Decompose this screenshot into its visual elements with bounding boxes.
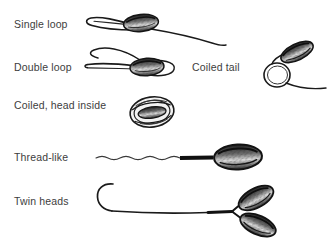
drawing-coiled-head-inside <box>128 94 176 130</box>
drawings-layer <box>0 0 336 247</box>
label-single-loop: Single loop <box>14 19 68 30</box>
label-coiled-tail: Coiled tail <box>192 62 240 73</box>
drawing-coiled-tail <box>264 37 326 89</box>
label-thread-like: Thread-like <box>14 152 68 163</box>
sperm-morphology-figure: Single loop Double loop Coiled, head ins… <box>0 0 336 247</box>
drawing-twin-heads <box>97 181 279 242</box>
label-coiled-head-inside: Coiled, head inside <box>14 100 106 111</box>
drawing-double-loop <box>85 48 174 77</box>
drawing-single-loop <box>87 13 226 46</box>
label-double-loop: Double loop <box>14 62 72 73</box>
drawing-thread-like <box>96 143 263 170</box>
label-twin-heads: Twin heads <box>14 196 69 207</box>
